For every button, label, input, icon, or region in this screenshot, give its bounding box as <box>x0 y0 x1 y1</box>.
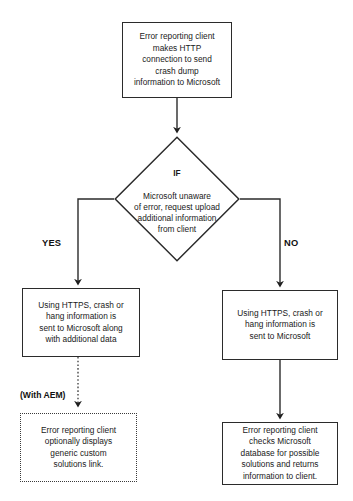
node-start-error-reporting-client: Error reporting client makes HTTP connec… <box>122 22 232 98</box>
node-right-process-https: Using HTTPS, crash or hang information i… <box>222 290 338 360</box>
flowchart-canvas: Error reporting client makes HTTP connec… <box>0 0 353 501</box>
edge-decision-yes <box>78 199 114 282</box>
branch-label-yes: YES <box>42 238 61 248</box>
node-decision-if: IF Microsoft unaware of error, request u… <box>114 136 240 262</box>
node-aem-label: Error reporting client optionally displa… <box>37 425 120 471</box>
node-right-end-label: Error reporting client checks Microsoft … <box>237 425 324 482</box>
node-right-process-label: Using HTTPS, crash or hang information i… <box>233 308 326 342</box>
node-left-process-https-with-data: Using HTTPS, crash or hang information i… <box>22 288 140 357</box>
node-decision-content: IF Microsoft unaware of error, request u… <box>134 157 220 247</box>
node-start-label: Error reporting client makes HTTP connec… <box>130 31 224 88</box>
branch-label-no: NO <box>284 238 298 248</box>
node-aem-optional-solutions-link: Error reporting client optionally displa… <box>20 413 137 482</box>
edge-label-with-aem: (With AEM) <box>20 390 65 400</box>
node-decision-keyword: IF <box>134 168 220 179</box>
node-left-process-label: Using HTTPS, crash or hang information i… <box>34 300 127 346</box>
node-decision-label: Microsoft unaware of error, request uplo… <box>134 191 220 236</box>
node-right-end-checks-database: Error reporting client checks Microsoft … <box>222 422 338 485</box>
edge-decision-no <box>240 199 280 284</box>
